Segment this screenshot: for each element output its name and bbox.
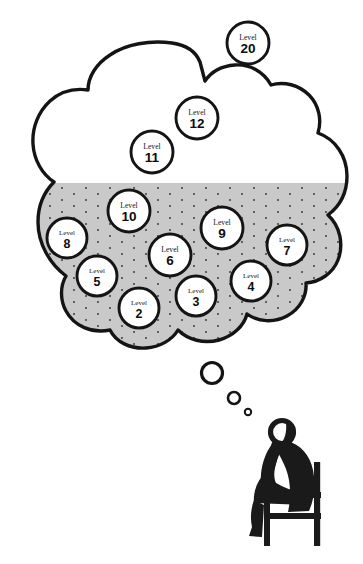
badge-number: 9 [218, 226, 226, 241]
badge-level-5[interactable]: Level5 [77, 256, 117, 296]
badge-number: 10 [121, 209, 136, 224]
badge-level-9[interactable]: Level9 [201, 207, 243, 249]
badge-word: Level [243, 272, 259, 280]
badge-number: 4 [248, 280, 255, 294]
bubble-medium [228, 392, 240, 404]
badge-word: Level [59, 229, 75, 237]
badge-number: 8 [64, 237, 71, 251]
badge-word: Level [89, 267, 105, 275]
bubble-small [245, 409, 251, 415]
badge-level-3[interactable]: Level3 [176, 276, 216, 316]
chair-seat-rail [264, 492, 321, 498]
badge-number: 11 [145, 150, 160, 165]
badge-level-7[interactable]: Level7 [267, 225, 307, 265]
badge-level-2[interactable]: Level2 [119, 288, 159, 328]
thought-trail-group [202, 363, 252, 416]
illustration-canvas: Level20Level12Level11Level10Level9Level8… [0, 0, 363, 564]
badge-number: 6 [166, 253, 174, 268]
badge-number: 2 [136, 307, 143, 321]
badge-number: 5 [94, 275, 101, 289]
badge-word: Level [279, 236, 295, 244]
badge-number: 20 [240, 41, 255, 56]
badge-level-12[interactable]: Level12 [176, 97, 218, 139]
badge-level-4[interactable]: Level4 [231, 261, 271, 301]
seated-thinking-figure [249, 421, 321, 547]
thinker-leg-foot [249, 500, 264, 537]
badge-number: 7 [284, 244, 291, 258]
badge-level-10[interactable]: Level10 [108, 190, 150, 232]
thought-cloud [0, 42, 363, 383]
badge-word: Level [131, 299, 147, 307]
badge-level-20[interactable]: Level20 [227, 22, 269, 64]
bubble-large [202, 363, 223, 384]
badge-number: 3 [193, 295, 200, 309]
badge-number: 12 [189, 116, 204, 131]
badge-level-11[interactable]: Level11 [131, 131, 173, 173]
badge-word: Level [188, 287, 204, 295]
chair-lower-rail [264, 513, 321, 519]
chair-back-post [314, 462, 320, 546]
badge-level-6[interactable]: Level6 [149, 234, 191, 276]
badge-level-8[interactable]: Level8 [47, 218, 87, 258]
